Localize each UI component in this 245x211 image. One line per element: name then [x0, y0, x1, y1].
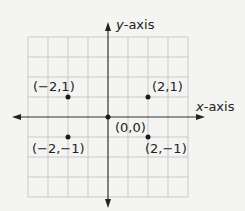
point-label-neg2-neg1: (−2,−1) — [32, 141, 85, 156]
point-2-1 — [146, 95, 151, 100]
point-neg2-1 — [66, 95, 71, 100]
point-origin — [106, 115, 111, 120]
coordinate-plane: y-axis x-axis (−2,1) (2,1) (0,0) (−2,−1)… — [0, 0, 245, 211]
arrow-up-icon — [105, 22, 111, 31]
point-label-2-neg1: (2,−1) — [145, 141, 187, 156]
point-label-neg2-1: (−2,1) — [33, 79, 75, 94]
point-label-origin: (0,0) — [115, 120, 146, 135]
arrow-left-icon — [12, 114, 21, 120]
y-axis-label: y-axis — [115, 17, 155, 32]
point-label-2-1: (2,1) — [152, 79, 183, 94]
point-neg2-neg1 — [66, 135, 71, 140]
arrow-right-icon — [196, 114, 205, 120]
point-2-neg1 — [146, 135, 151, 140]
x-axis-label: x-axis — [195, 99, 235, 114]
arrow-down-icon — [105, 199, 111, 208]
